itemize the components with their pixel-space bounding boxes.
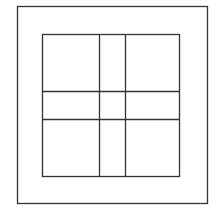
inner-square — [43, 35, 180, 177]
grid-diagram — [0, 0, 217, 213]
